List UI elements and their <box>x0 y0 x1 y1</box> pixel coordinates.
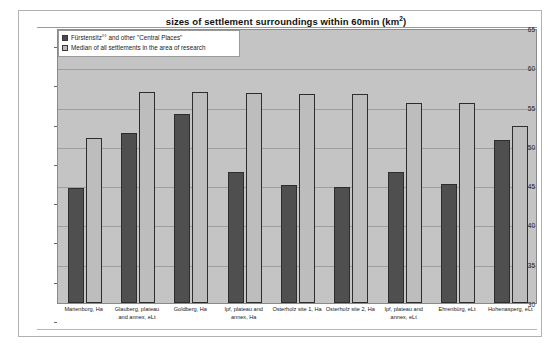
chart-frame: sizes of settlement surroundings within … <box>18 10 542 337</box>
legend-swatch-icon-series-a <box>62 35 68 41</box>
bar-group <box>378 30 431 303</box>
y-tick-label-35: 35 <box>528 261 535 268</box>
chart-title: sizes of settlement surroundings within … <box>51 13 521 28</box>
y-tick-label-30: 30 <box>528 301 535 308</box>
bars-layer <box>58 30 536 303</box>
bar-group <box>58 30 111 303</box>
bar-series-a <box>388 172 404 303</box>
bar-series-b <box>86 138 102 303</box>
bar-series-b <box>459 103 475 303</box>
y-tick-label-65: 65 <box>528 26 535 33</box>
bar-series-b <box>139 92 155 303</box>
bar-series-a <box>68 188 84 304</box>
bar-series-a <box>228 172 244 303</box>
bar-group <box>111 30 164 303</box>
y-tick-label-55: 55 <box>528 104 535 111</box>
y-tick-label-50: 50 <box>528 143 535 150</box>
x-axis-divider <box>37 329 537 330</box>
y-axis <box>19 29 57 304</box>
bar-group <box>271 30 324 303</box>
x-tick-label: Osterholz site 2, Ha <box>324 306 377 314</box>
bar-group <box>218 30 271 303</box>
bar-series-a <box>121 133 137 304</box>
bar-series-b <box>512 126 528 303</box>
x-tick-label: Goldberg, Ha <box>164 306 217 314</box>
plot-area <box>57 29 537 304</box>
legend-label-series-b: Median of all settlements in the area of… <box>71 44 205 52</box>
bar-series-a <box>494 140 510 303</box>
y-tick-label-40: 40 <box>528 222 535 229</box>
bar-series-b <box>406 103 422 303</box>
bar-group <box>431 30 484 303</box>
legend-swatch-icon-series-b <box>62 45 68 51</box>
x-tick-label: Glauberg, plateau and annex, eLt <box>110 306 163 321</box>
bar-group <box>165 30 218 303</box>
bar-series-a <box>441 184 457 303</box>
title-divider <box>37 27 537 28</box>
bar-series-a <box>174 114 190 303</box>
legend-label-series-a: Fürstensitz°° and other "Central Places" <box>71 34 182 42</box>
chart-title-text: sizes of settlement surroundings within … <box>166 16 399 27</box>
x-tick-label: Ehrenbürg, eLt <box>430 306 483 314</box>
bar-series-b <box>352 94 368 303</box>
bar-series-a <box>334 187 350 303</box>
bar-series-b <box>246 93 262 303</box>
bar-group <box>325 30 378 303</box>
chart-legend: Fürstensitz°° and other "Central Places"… <box>58 30 240 57</box>
x-tick-label: Ipf, plateau and annex, eLt <box>377 306 430 321</box>
legend-item-series-b: Median of all settlements in the area of… <box>62 43 235 53</box>
y-tick-label-45: 45 <box>528 183 535 190</box>
bar-series-a <box>281 185 297 303</box>
y-tick-label-60: 60 <box>528 65 535 72</box>
x-tick-label: Osterholz site 1, Ha <box>270 306 323 314</box>
chart-title-suffix: ) <box>403 16 406 27</box>
x-axis: Marienborg, HaGlauberg, plateau and anne… <box>57 306 537 336</box>
bar-series-b <box>192 92 208 303</box>
x-tick-label: Ipf, plateau and annex, Ha <box>217 306 270 321</box>
x-tick-label: Marienborg, Ha <box>57 306 110 314</box>
bar-series-b <box>299 94 315 303</box>
legend-item-series-a: Fürstensitz°° and other "Central Places" <box>62 33 235 43</box>
